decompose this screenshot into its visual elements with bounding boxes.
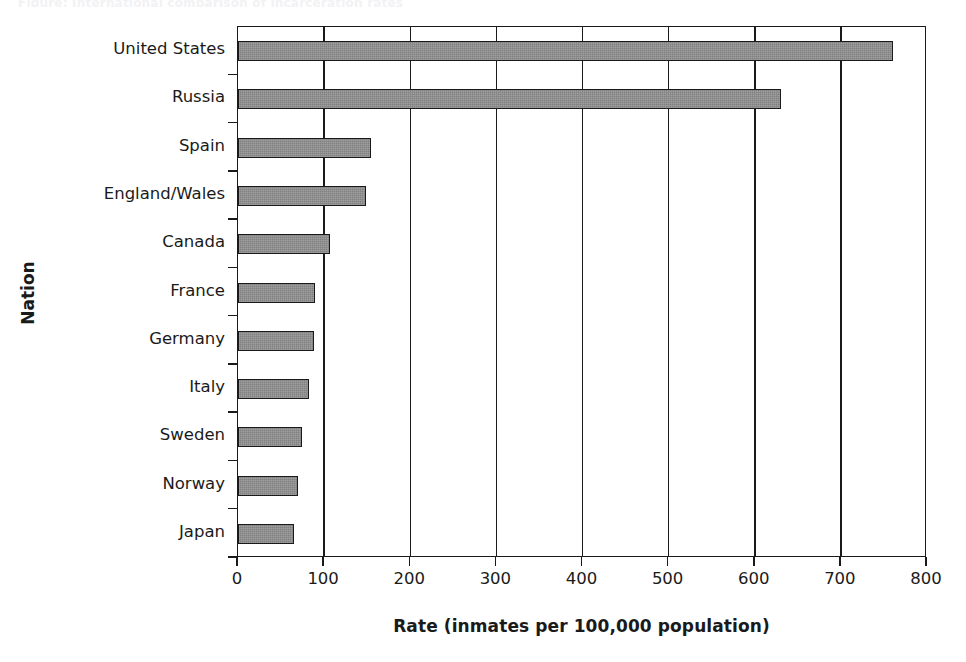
y-axis-category-text: Germany — [25, 331, 225, 348]
y-axis-category-text: Norway — [25, 476, 225, 493]
x-axis-tick — [236, 557, 238, 566]
y-axis-tick — [228, 122, 237, 124]
y-axis-tick — [228, 74, 237, 76]
y-axis-category-label: Germany — [20, 331, 225, 349]
y-axis-tick — [228, 267, 237, 269]
y-axis-category-text: Sweden — [25, 427, 225, 444]
y-axis-category-label: United States — [20, 41, 225, 59]
y-axis-tick — [228, 508, 237, 510]
bar — [238, 283, 315, 303]
bar — [238, 331, 314, 351]
y-axis-tick — [228, 460, 237, 462]
y-axis-category-label: Norway — [20, 476, 225, 494]
x-axis-tick-label: 200 — [379, 569, 439, 589]
y-axis-tick — [228, 363, 237, 365]
y-axis-category-label: England/Wales — [20, 186, 225, 204]
y-axis-category-label: Sweden — [20, 427, 225, 445]
y-axis-category-label: Italy — [20, 379, 225, 397]
x-axis-title: Rate (inmates per 100,000 population) — [237, 616, 926, 636]
x-axis-tick-label: 800 — [896, 569, 956, 589]
x-axis-tick-label: 100 — [293, 569, 353, 589]
plot-area — [237, 26, 926, 557]
x-axis-tick — [322, 557, 324, 566]
y-axis-category-label: Japan — [20, 524, 225, 542]
caption-remnant-text: Figure: International comparison of inca… — [18, 0, 948, 7]
y-axis-tick — [228, 170, 237, 172]
x-axis-tick-label: 300 — [465, 569, 525, 589]
y-axis-category-text: Japan — [25, 524, 225, 541]
bar — [238, 476, 298, 496]
x-axis-tick-label: 0 — [207, 569, 267, 589]
bar — [238, 427, 302, 447]
x-axis-tick — [925, 557, 927, 566]
bar — [238, 41, 893, 61]
y-axis-tick — [228, 25, 237, 27]
bar — [238, 234, 330, 254]
x-axis-tick — [495, 557, 497, 566]
y-axis-tick — [228, 218, 237, 220]
bar — [238, 89, 781, 109]
y-axis-tick — [228, 411, 237, 413]
bar — [238, 379, 309, 399]
bar — [238, 138, 371, 158]
x-axis-tick-label: 700 — [810, 569, 870, 589]
x-axis-tick — [581, 557, 583, 566]
y-axis-category-text: Spain — [25, 138, 225, 155]
y-axis-category-text: Canada — [25, 234, 225, 251]
gridline — [840, 27, 842, 556]
y-axis-category-text: England/Wales — [25, 186, 225, 203]
y-axis-category-label: Russia — [20, 89, 225, 107]
y-axis-category-label: France — [20, 283, 225, 301]
y-axis-category-label: Canada — [20, 234, 225, 252]
x-axis-tick-label: 600 — [724, 569, 784, 589]
y-axis-category-text: France — [25, 283, 225, 300]
x-axis-tick-label: 400 — [552, 569, 612, 589]
x-axis-tick — [667, 557, 669, 566]
y-axis-tick — [228, 315, 237, 317]
y-axis-category-text: Russia — [25, 89, 225, 106]
x-axis-tick-label: 500 — [638, 569, 698, 589]
x-axis-tick — [409, 557, 411, 566]
bar — [238, 524, 294, 544]
y-axis-category-text: United States — [25, 41, 225, 58]
x-axis-tick — [839, 557, 841, 566]
y-axis-category-text: Italy — [25, 379, 225, 396]
y-axis-category-label: Spain — [20, 138, 225, 156]
x-axis-tick — [753, 557, 755, 566]
chart-figure: Figure: International comparison of inca… — [0, 0, 966, 662]
bar — [238, 186, 366, 206]
